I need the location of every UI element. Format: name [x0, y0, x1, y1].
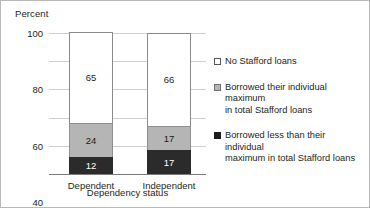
bar-segment[interactable]: 12	[69, 157, 113, 174]
legend-item-label: Borrowed less than their individualmaxim…	[225, 130, 366, 165]
bar-dependent[interactable]: 122465	[69, 32, 113, 174]
bar-value-label: 65	[86, 73, 97, 83]
legend-swatch-icon	[214, 132, 221, 139]
legend-item[interactable]: No Stafford loans	[214, 56, 366, 68]
legend-item[interactable]: Borrowed less than their individualmaxim…	[214, 130, 366, 165]
bar-value-label: 12	[86, 161, 97, 171]
gridline-0: 0	[49, 174, 206, 175]
legend-item[interactable]: Borrowed their individual maximumin tota…	[214, 82, 366, 117]
chart-legend: No Stafford loansBorrowed their individu…	[214, 56, 366, 165]
y-tick-label-80: 80	[9, 84, 43, 95]
bar-segment[interactable]: 17	[147, 150, 191, 174]
y-tick-label-100: 100	[9, 28, 43, 39]
plot-area: Dependent Independent 020406080100122465…	[49, 33, 206, 174]
bar-independent[interactable]: 171766	[147, 33, 191, 174]
y-axis-title: Percent	[15, 8, 48, 19]
legend-item-label: Borrowed their individual maximumin tota…	[225, 82, 366, 117]
y-tick-label-40: 40	[9, 197, 43, 208]
legend-swatch-icon	[214, 58, 221, 65]
chart-figure: Percent Dependent Independent 0204060801…	[0, 0, 370, 208]
bar-value-label: 17	[164, 134, 175, 144]
x-axis-title: Dependency status	[49, 187, 206, 198]
legend-item-label: No Stafford loans	[225, 56, 297, 68]
bar-segment[interactable]: 65	[69, 32, 113, 124]
bar-segment[interactable]: 24	[69, 123, 113, 157]
bar-segment[interactable]: 17	[147, 126, 191, 150]
bar-value-label: 24	[86, 136, 97, 146]
y-tick-label-60: 60	[9, 140, 43, 151]
legend-swatch-icon	[214, 84, 221, 91]
bar-segment[interactable]: 66	[147, 33, 191, 126]
bar-value-label: 66	[164, 75, 175, 85]
bar-value-label: 17	[164, 158, 175, 168]
